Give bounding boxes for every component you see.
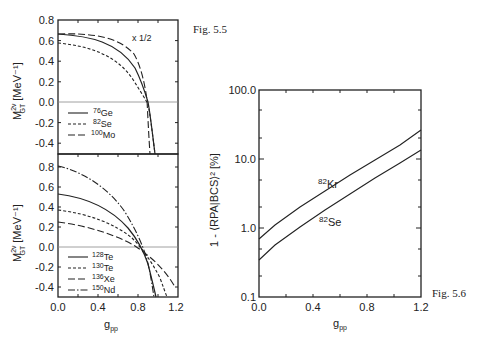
bottom-ticks bbox=[58, 154, 178, 297]
svg-text:100Mo: 100Mo bbox=[91, 129, 115, 140]
svg-text:0.6: 0.6 bbox=[39, 35, 54, 47]
svg-text:-0.2: -0.2 bbox=[35, 261, 54, 273]
svg-text:150Nd: 150Nd bbox=[92, 284, 115, 295]
bottom-ylabel: M2νGT[MeV⁻¹] bbox=[10, 204, 26, 262]
fig55-bottom-panel: 0.8 0.6 0.4 0.2 0.0 -0.2 -0.4 0.0 0.4 0.… bbox=[10, 154, 184, 333]
svg-text:130Te: 130Te bbox=[92, 262, 113, 273]
curve-136Xe bbox=[58, 222, 175, 287]
top-legend: 76Ge 82Se 100Mo bbox=[68, 107, 115, 140]
bottom-xtick-labels: 0.0 0.4 0.8 1.2 bbox=[50, 301, 183, 313]
svg-text:128Te: 128Te bbox=[92, 251, 113, 262]
svg-text:0.0: 0.0 bbox=[39, 241, 54, 253]
svg-text:M2νGT[MeV⁻¹]: M2νGT[MeV⁻¹] bbox=[10, 62, 26, 120]
svg-text:0.4: 0.4 bbox=[90, 301, 105, 313]
svg-text:-0.4: -0.4 bbox=[35, 137, 54, 149]
top-ytick-labels: 0.8 0.6 0.4 0.2 0.0 -0.2 -0.4 bbox=[35, 14, 54, 149]
svg-text:-0.4: -0.4 bbox=[35, 281, 54, 293]
svg-text:100.0: 100.0 bbox=[228, 84, 256, 96]
svg-text:0.8: 0.8 bbox=[39, 161, 54, 173]
right-ylabel: 1 - ⟨RPA|BCS⟩² [%] bbox=[208, 153, 220, 247]
svg-text:1.0: 1.0 bbox=[241, 222, 256, 234]
fig56-panel: 100.0 10.0 1.0 0.1 0.0 0.4 0.8 1.2 gpp 1… bbox=[208, 84, 429, 332]
svg-text:0.4: 0.4 bbox=[39, 55, 54, 67]
svg-text:0.8: 0.8 bbox=[130, 301, 145, 313]
top-frame bbox=[58, 20, 178, 154]
svg-text:76Ge: 76Ge bbox=[93, 107, 113, 118]
svg-text:0.6: 0.6 bbox=[39, 181, 54, 193]
top-ylabel: M2νGT[MeV⁻¹] bbox=[10, 62, 26, 120]
top-ticks bbox=[58, 20, 178, 143]
svg-text:0.8: 0.8 bbox=[39, 14, 54, 26]
figure-canvas: 0.8 0.6 0.4 0.2 0.0 -0.2 -0.4 M2νGT[MeV⁻… bbox=[0, 0, 484, 337]
svg-text:0.4: 0.4 bbox=[305, 301, 320, 313]
label-82Se: 82Se bbox=[319, 215, 341, 228]
svg-text:0.0: 0.0 bbox=[251, 301, 266, 313]
right-ticks bbox=[259, 90, 421, 297]
svg-text:82Se: 82Se bbox=[93, 118, 112, 129]
svg-text:10.0: 10.0 bbox=[235, 153, 256, 165]
bottom-legend: 128Te 130Te 136Xe 150Nd bbox=[68, 251, 115, 295]
bottom-frame bbox=[58, 154, 178, 297]
svg-text:1.2: 1.2 bbox=[413, 301, 428, 313]
times-half-annotation: x 1/2 bbox=[132, 33, 152, 43]
right-xtick-labels: 0.0 0.4 0.8 1.2 bbox=[251, 301, 428, 313]
svg-text:0.2: 0.2 bbox=[39, 221, 54, 233]
svg-text:0.0: 0.0 bbox=[50, 301, 65, 313]
svg-text:0.2: 0.2 bbox=[39, 76, 54, 88]
svg-text:0.8: 0.8 bbox=[359, 301, 374, 313]
bottom-ytick-labels: 0.8 0.6 0.4 0.2 0.0 -0.2 -0.4 bbox=[35, 161, 54, 293]
bottom-xlabel: gpp bbox=[104, 318, 118, 333]
svg-text:0.0: 0.0 bbox=[39, 96, 54, 108]
right-xlabel: gpp bbox=[333, 317, 347, 332]
curve-82Se bbox=[259, 150, 421, 260]
svg-text:136Xe: 136Xe bbox=[92, 273, 115, 284]
svg-text:-0.2: -0.2 bbox=[35, 117, 54, 129]
fig55-top-panel: 0.8 0.6 0.4 0.2 0.0 -0.2 -0.4 M2νGT[MeV⁻… bbox=[10, 14, 178, 154]
svg-text:M2νGT[MeV⁻¹]: M2νGT[MeV⁻¹] bbox=[10, 204, 26, 262]
fig-5-5-caption: Fig. 5.5 bbox=[193, 23, 227, 35]
label-82Kr: 82Kr bbox=[318, 177, 338, 190]
right-ytick-labels: 100.0 10.0 1.0 0.1 bbox=[228, 84, 256, 303]
svg-text:0.4: 0.4 bbox=[39, 201, 54, 213]
fig-5-6-caption: Fig. 5.6 bbox=[432, 287, 466, 299]
svg-text:1.2: 1.2 bbox=[168, 301, 183, 313]
right-frame bbox=[259, 90, 421, 297]
